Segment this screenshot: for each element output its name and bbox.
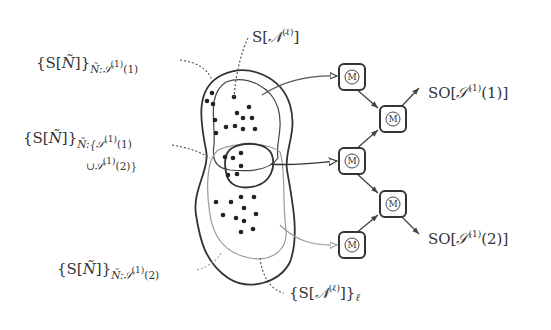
edge-m4-out2 bbox=[400, 215, 419, 234]
edge-upper-to-m1 bbox=[262, 76, 337, 95]
node-m5: M bbox=[339, 232, 365, 258]
edge-m3-m4 bbox=[355, 172, 378, 193]
label-lower-left: {S[Ñ]}Ñ:𝒮(1)(2) bbox=[57, 260, 159, 281]
node-m1-label: M bbox=[347, 72, 356, 82]
edge-m2-out1 bbox=[400, 88, 419, 108]
edge-intersection-to-m3 bbox=[271, 161, 337, 165]
node-m3: M bbox=[339, 148, 365, 174]
label-middle-left-line2: ∪𝒮(1)(2)} bbox=[86, 156, 137, 173]
leader-middle-left bbox=[172, 145, 210, 158]
leader-lower-left bbox=[197, 252, 222, 270]
node-m2: M bbox=[380, 106, 406, 132]
outer-neighborhood-contour bbox=[195, 70, 294, 284]
node-m1: M bbox=[339, 64, 365, 90]
node-m4: M bbox=[380, 191, 406, 217]
label-upper-left: {S[Ñ]}Ñ:𝒮(1)(1) bbox=[36, 54, 138, 75]
lower-region-dots bbox=[214, 195, 259, 235]
label-output-2: SO[𝒮(1)(2)] bbox=[428, 229, 508, 248]
label-output-1: SO[𝒮(1)(1)] bbox=[428, 83, 508, 102]
leader-upper-left bbox=[180, 60, 212, 80]
label-bottom: {S[𝒩(ℓ)]}ℓ bbox=[289, 283, 360, 303]
node-m3-label: M bbox=[347, 156, 356, 166]
label-top: S[𝒩(ℓ)] bbox=[252, 27, 299, 46]
node-m5-label: M bbox=[347, 240, 356, 250]
intersection-contour bbox=[225, 144, 273, 188]
upper-region-dots bbox=[205, 91, 258, 136]
label-middle-left: {S[Ñ]}Ñ:{𝒮(1)(1) bbox=[23, 129, 132, 151]
node-m4-label: M bbox=[388, 199, 397, 209]
node-m2-label: M bbox=[388, 114, 397, 124]
diagram-canvas: M M M M M S[𝒩(ℓ)] {S[Ñ]}Ñ:𝒮(1)(1) {S[Ñ]}… bbox=[0, 0, 551, 330]
edge-lower-to-m5 bbox=[280, 225, 337, 245]
leader-bottom bbox=[260, 258, 284, 293]
leader-top bbox=[234, 38, 248, 97]
